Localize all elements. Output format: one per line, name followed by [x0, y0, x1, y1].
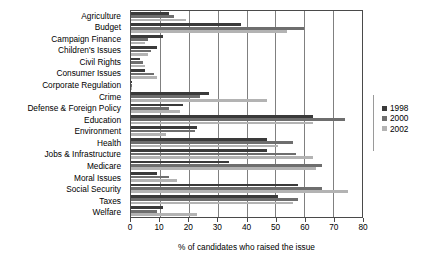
category-label: Moral Issues — [0, 172, 125, 184]
bar-2002 — [131, 65, 145, 68]
bar-group — [131, 103, 362, 114]
bar-1998 — [131, 35, 163, 38]
bar-2000 — [131, 198, 298, 201]
bar-1998 — [131, 184, 298, 187]
bar-2000 — [131, 176, 169, 179]
x-axis: 01020304050607080 — [130, 218, 363, 234]
bar-2002 — [131, 156, 313, 159]
bar-2000 — [131, 118, 345, 121]
bar-1998 — [131, 92, 209, 95]
legend-label: 2000 — [390, 114, 408, 122]
category-label: Civil Rights — [0, 56, 125, 68]
bar-group — [131, 160, 362, 171]
bar-group — [131, 194, 362, 205]
category-label: Health — [0, 137, 125, 149]
x-axis-title: % of candidates who raised the issue — [130, 242, 363, 252]
bar-2000 — [131, 15, 174, 18]
category-label: Children's Issues — [0, 45, 125, 57]
bar-group — [131, 183, 362, 194]
bar-group — [131, 68, 362, 79]
bar-group — [131, 22, 362, 33]
bar-1998 — [131, 58, 140, 61]
legend-swatch-icon — [382, 106, 387, 111]
bar-group — [131, 34, 362, 45]
bar-group — [131, 80, 362, 91]
bar-2002 — [131, 213, 197, 216]
x-tick-label: 20 — [184, 222, 193, 232]
bar-2002 — [131, 179, 177, 182]
plot-area — [130, 10, 363, 218]
category-axis-labels: AgricultureBudgetCampaign FinanceChildre… — [0, 10, 125, 218]
bar-groups — [131, 11, 362, 217]
bar-group — [131, 171, 362, 182]
bar-2002 — [131, 42, 145, 45]
x-tick-label: 40 — [242, 222, 251, 232]
bar-2002 — [131, 99, 267, 102]
legend-item: 1998 — [382, 104, 408, 112]
bar-2002 — [131, 202, 293, 205]
bar-2000 — [131, 153, 296, 156]
bar-group — [131, 148, 362, 159]
bar-2002 — [131, 87, 132, 90]
legend-item: 2000 — [382, 114, 408, 122]
legend-item: 2002 — [382, 125, 408, 133]
category-label: Budget — [0, 22, 125, 34]
bar-group — [131, 57, 362, 68]
bar-2000 — [131, 50, 151, 53]
bar-1998 — [131, 104, 183, 107]
x-tick-label: 10 — [155, 222, 164, 232]
legend-swatch-icon — [382, 116, 387, 121]
x-tick-label: 60 — [300, 222, 309, 232]
bar-1998 — [131, 69, 145, 72]
bar-2000 — [131, 107, 169, 110]
x-tick-label: 80 — [358, 222, 367, 232]
bar-group — [131, 137, 362, 148]
legend-divider — [373, 95, 374, 151]
bar-2000 — [131, 73, 154, 76]
category-label: Agriculture — [0, 10, 125, 22]
legend-label: 1998 — [390, 104, 408, 112]
category-label: Defense & Foreign Policy — [0, 103, 125, 115]
category-label: Education — [0, 114, 125, 126]
legend-label: 2002 — [390, 125, 408, 133]
bar-2000 — [131, 95, 200, 98]
bar-1998 — [131, 161, 229, 164]
bar-group — [131, 114, 362, 125]
category-label: Jobs & Infrastructure — [0, 149, 125, 161]
bar-2002 — [131, 30, 287, 33]
bar-1998 — [131, 172, 157, 175]
category-label: Consumer Issues — [0, 68, 125, 80]
bar-1998 — [131, 23, 241, 26]
bar-2000 — [131, 141, 293, 144]
category-label: Campaign Finance — [0, 33, 125, 45]
bar-2000 — [131, 38, 148, 41]
bar-1998 — [131, 126, 197, 129]
bar-2002 — [131, 190, 348, 193]
bar-2002 — [131, 167, 316, 170]
bar-2000 — [131, 187, 322, 190]
bar-2000 — [131, 210, 157, 213]
bar-2000 — [131, 84, 132, 87]
category-label: Corporate Regulation — [0, 79, 125, 91]
bar-group — [131, 205, 362, 216]
bar-2002 — [131, 145, 278, 148]
bar-2002 — [131, 133, 166, 136]
bar-group — [131, 45, 362, 56]
bar-2000 — [131, 164, 322, 167]
x-tick-label: 50 — [271, 222, 280, 232]
bar-2002 — [131, 53, 148, 56]
bar-group — [131, 91, 362, 102]
bar-1998 — [131, 46, 157, 49]
bar-1998 — [131, 149, 267, 152]
bar-2000 — [131, 61, 143, 64]
category-label: Social Security — [0, 183, 125, 195]
bar-1998 — [131, 12, 169, 15]
bar-1998 — [131, 138, 267, 141]
bar-1998 — [131, 206, 163, 209]
bar-2002 — [131, 19, 186, 22]
x-tick-label: 0 — [128, 222, 133, 232]
bar-2002 — [131, 122, 313, 125]
category-label: Welfare — [0, 207, 125, 219]
bar-1998 — [131, 81, 132, 84]
legend-swatch-icon — [382, 126, 387, 131]
